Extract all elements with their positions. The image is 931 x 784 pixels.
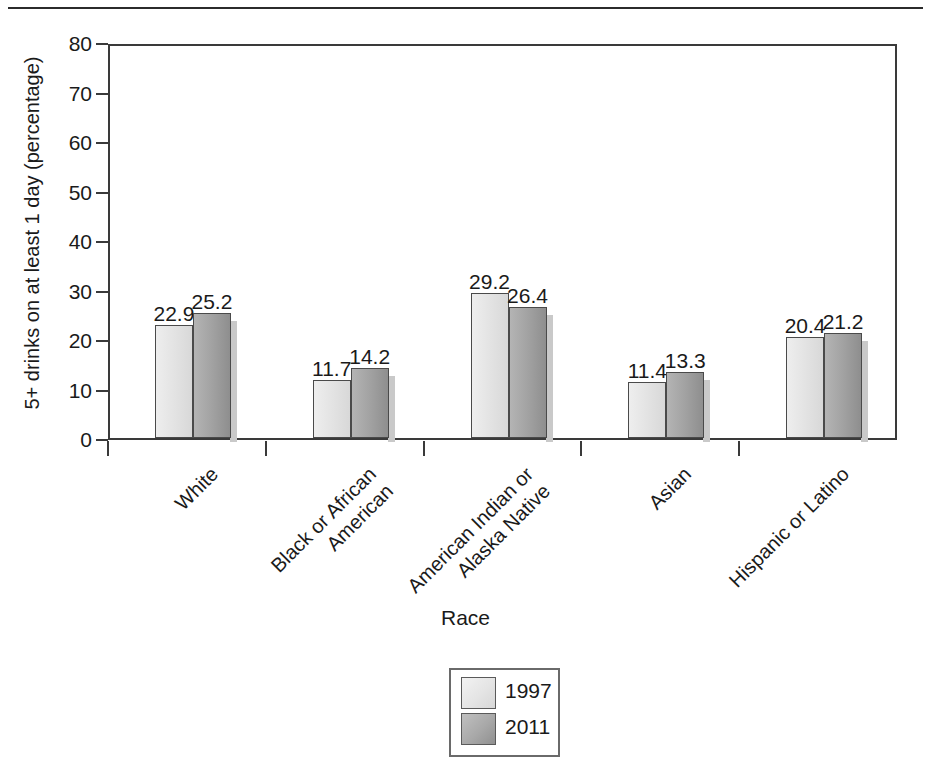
y-axis-tick-label: 30 xyxy=(30,281,92,302)
page-top-rule xyxy=(8,7,923,9)
chart-legend: 19972011 xyxy=(449,668,560,757)
bar-value-label: 14.2 xyxy=(342,346,398,367)
bar-shadow xyxy=(861,341,868,442)
bar-2011-4 xyxy=(824,333,862,438)
x-axis-tick xyxy=(580,441,582,456)
y-axis-tick xyxy=(96,390,108,392)
y-axis-tick xyxy=(96,142,108,144)
legend-label: 1997 xyxy=(505,679,552,703)
bar-2011-1 xyxy=(351,368,389,438)
y-axis-tick xyxy=(96,93,108,95)
bar-value-label: 13.3 xyxy=(657,350,713,371)
legend-swatch-2011 xyxy=(461,713,496,745)
bar-2011-3 xyxy=(666,372,704,438)
y-axis-tick-label: 10 xyxy=(30,380,92,401)
y-axis-tick-label: 50 xyxy=(30,182,92,203)
legend-label: 2011 xyxy=(505,715,550,739)
y-axis-tick xyxy=(96,340,108,342)
legend-swatch-1997 xyxy=(461,677,496,709)
y-axis-tick-label: 40 xyxy=(30,231,92,252)
y-axis-tick-label: 80 xyxy=(30,33,92,54)
plot-area: 22.925.211.714.229.226.411.413.320.421.2 xyxy=(108,44,897,440)
bar-1997-4 xyxy=(786,337,824,438)
bar-shadow xyxy=(703,380,710,442)
bar-value-label: 25.2 xyxy=(184,291,240,312)
bar-2011-0 xyxy=(193,313,231,438)
x-axis-tick xyxy=(738,441,740,456)
x-axis-tick xyxy=(265,441,267,456)
bar-1997-0 xyxy=(155,325,193,438)
y-axis-tick-label: 20 xyxy=(30,330,92,351)
x-axis-tick xyxy=(107,441,109,456)
y-axis-tick xyxy=(96,291,108,293)
bar-shadow xyxy=(230,321,237,442)
x-axis-tick xyxy=(423,441,425,456)
bar-value-label: 26.4 xyxy=(500,285,556,306)
bar-1997-1 xyxy=(313,380,351,438)
y-axis-tick-label: 70 xyxy=(30,83,92,104)
bar-2011-2 xyxy=(509,307,547,438)
chart-page: 5+ drinks on at least 1 day (percentage)… xyxy=(0,0,931,784)
bar-1997-2 xyxy=(471,293,509,438)
bar-shadow xyxy=(388,376,395,442)
y-axis-tick xyxy=(96,43,108,45)
bar-1997-3 xyxy=(628,382,666,438)
x-axis-title: Race xyxy=(0,606,931,630)
y-axis-tick xyxy=(96,192,108,194)
bar-value-label: 21.2 xyxy=(815,311,871,332)
y-axis-tick xyxy=(96,241,108,243)
y-axis-tick-label: 0 xyxy=(30,429,92,450)
y-axis-tick-label: 60 xyxy=(30,132,92,153)
bar-shadow xyxy=(546,315,553,442)
